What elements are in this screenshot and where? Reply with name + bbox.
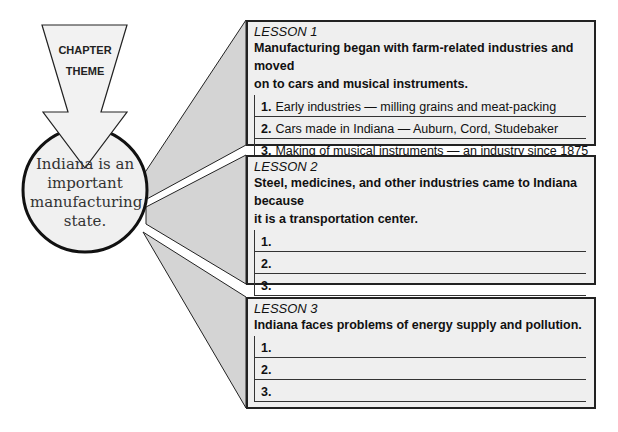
lesson-row[interactable]: 3. [255,380,586,402]
lesson-title: LESSON 3 [254,301,586,316]
lesson-row[interactable]: 2. [255,252,586,274]
row-number: 2. [261,257,271,271]
lesson-1-box: LESSON 1 Manufacturing began with farm-r… [246,20,596,146]
lesson-row[interactable]: 2. [255,358,586,380]
lesson-row[interactable]: 1. [255,336,586,358]
main-idea-line: it is a transportation center. [254,210,586,228]
lesson-row[interactable]: 1.Early industries — milling grains and … [255,95,586,117]
theme-line: Indiana is an [30,155,140,174]
lesson-title: LESSON 2 [254,159,586,174]
row-number: 3. [261,385,271,399]
row-number: 3. [261,279,271,293]
lesson-main-idea: Steel, medicines, and other industries c… [254,174,586,228]
lesson-main-idea: Indiana faces problems of energy supply … [254,316,586,334]
row-number: 2. [261,363,271,377]
lesson-2-box: LESSON 2 Steel, medicines, and other ind… [246,155,596,285]
main-idea-line: Manufacturing began with farm-related in… [254,39,586,75]
lesson-rows: 1.Early industries — milling grains and … [254,95,586,161]
row-number: 2. [261,122,271,136]
row-text: Early industries — milling grains and me… [275,100,556,114]
arrow-label-line1: CHAPTER [42,44,128,56]
lesson-main-idea: Manufacturing began with farm-related in… [254,39,586,93]
row-number: 1. [261,235,271,249]
row-number: 1. [261,341,271,355]
arrow-label-line2: THEME [42,65,128,77]
theme-line: manufacturing [30,193,140,212]
lesson-row[interactable]: 1. [255,230,586,252]
lesson-rows: 1. 2. 3. [254,336,586,402]
lesson-row[interactable]: 2.Cars made in Indiana — Auburn, Cord, S… [255,117,586,139]
main-idea-line: on to cars and musical instruments. [254,75,586,93]
main-idea-line: Steel, medicines, and other industries c… [254,174,586,210]
theme-statement: Indiana is an important manufacturing st… [30,155,140,231]
lesson-3-box: LESSON 3 Indiana faces problems of energ… [246,297,596,409]
theme-line: state. [30,212,140,231]
lesson-rows: 1. 2. 3. [254,230,586,296]
row-number: 1. [261,100,271,114]
lesson-row[interactable]: 3. [255,274,586,296]
row-text: Cars made in Indiana — Auburn, Cord, Stu… [275,122,558,136]
main-idea-line: Indiana faces problems of energy supply … [254,316,586,334]
theme-line: important [30,174,140,193]
lesson-title: LESSON 1 [254,24,586,39]
